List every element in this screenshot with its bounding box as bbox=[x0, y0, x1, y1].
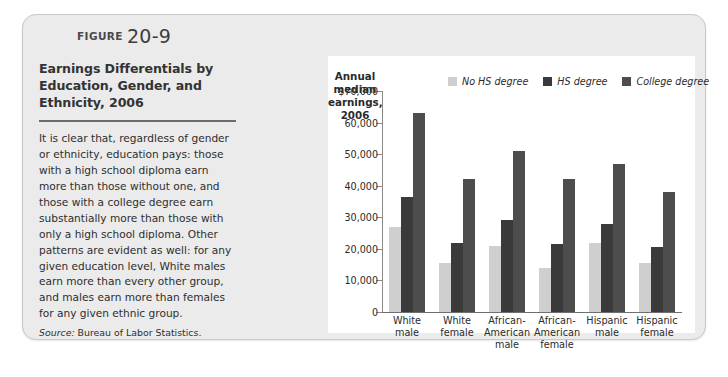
legend-item[interactable]: College degree bbox=[622, 76, 709, 87]
x-axis-label-line: American bbox=[532, 327, 582, 339]
bar bbox=[439, 263, 451, 312]
bar-group bbox=[638, 192, 676, 312]
bar bbox=[613, 164, 625, 312]
x-axis-label: Whitefemale bbox=[432, 315, 482, 339]
x-axis-label-line: White bbox=[382, 315, 432, 327]
bar bbox=[463, 179, 475, 312]
y-axis-tick-label: 10,000 bbox=[344, 275, 378, 286]
legend-swatch-icon bbox=[448, 77, 457, 86]
y-axis-tick-label: $70,000 bbox=[338, 86, 378, 97]
source-text: Bureau of Labor Statistics. bbox=[75, 327, 202, 338]
x-axis-label-line: male bbox=[382, 327, 432, 339]
figure-label-word: FIGURE bbox=[77, 30, 123, 42]
x-axis-labels: WhitemaleWhitefemaleAfrican-Americanmale… bbox=[382, 315, 682, 355]
bar bbox=[389, 227, 401, 312]
bar bbox=[451, 243, 463, 312]
source-word: Source: bbox=[39, 327, 75, 338]
figure-source-line: Source: Bureau of Labor Statistics. bbox=[39, 327, 244, 339]
x-axis-label-line: Hispanic bbox=[582, 315, 632, 327]
x-axis-label: Hispanicmale bbox=[582, 315, 632, 339]
figure-body-text: It is clear that, regardless of gender o… bbox=[39, 131, 239, 322]
y-axis-tick-label: 20,000 bbox=[344, 243, 378, 254]
bar bbox=[589, 243, 601, 312]
bar-group bbox=[488, 151, 526, 312]
legend-swatch-icon bbox=[543, 77, 552, 86]
bar bbox=[539, 268, 551, 312]
y-axis-tick-label: 30,000 bbox=[344, 212, 378, 223]
figure-number: 20-9 bbox=[127, 25, 171, 47]
y-axis-line bbox=[382, 91, 383, 313]
bar bbox=[563, 179, 575, 312]
figure-label: FIGURE20-9 bbox=[77, 23, 251, 46]
legend-label: HS degree bbox=[557, 76, 607, 87]
bar bbox=[501, 220, 513, 312]
bar-group bbox=[538, 179, 576, 312]
x-axis-label-line: White bbox=[432, 315, 482, 327]
x-axis-label: Hispanicfemale bbox=[632, 315, 682, 339]
y-axis-tick-label: 50,000 bbox=[344, 149, 378, 160]
x-axis-label-line: female bbox=[432, 327, 482, 339]
x-axis-label-line: female bbox=[632, 327, 682, 339]
y-axis-tick-label: 0 bbox=[372, 307, 378, 318]
bar bbox=[413, 113, 425, 312]
x-axis-label-line: female bbox=[532, 339, 582, 351]
bar bbox=[489, 246, 501, 312]
figure-title: Earnings Differentials by Education, Gen… bbox=[39, 60, 251, 111]
x-axis-label-line: Hispanic bbox=[632, 315, 682, 327]
legend-swatch-icon bbox=[622, 77, 631, 86]
bar bbox=[601, 224, 613, 312]
bar bbox=[551, 244, 563, 312]
x-axis-label-line: African- bbox=[482, 315, 532, 327]
bar bbox=[651, 247, 663, 312]
bar bbox=[663, 192, 675, 312]
bar bbox=[639, 263, 651, 312]
x-axis-label-line: African- bbox=[532, 315, 582, 327]
x-axis-label-line: male bbox=[582, 327, 632, 339]
y-axis-tick-label: 60,000 bbox=[344, 117, 378, 128]
chart-legend: No HS degreeHS degreeCollege degree bbox=[448, 76, 709, 87]
bar-group bbox=[388, 113, 426, 312]
figure-card: FIGURE20-9 Earnings Differentials by Edu… bbox=[22, 14, 706, 340]
bar-group bbox=[438, 179, 476, 312]
title-divider bbox=[39, 120, 236, 122]
bar-group bbox=[588, 164, 626, 312]
legend-label: College degree bbox=[636, 76, 709, 87]
x-axis-label: African-Americanmale bbox=[482, 315, 532, 350]
legend-item[interactable]: No HS degree bbox=[448, 76, 528, 87]
y-axis-title-line: earnings, bbox=[328, 96, 382, 109]
x-axis-label: Whitemale bbox=[382, 315, 432, 339]
legend-label: No HS degree bbox=[462, 76, 528, 87]
y-axis-tick-label: 40,000 bbox=[344, 180, 378, 191]
x-axis-line bbox=[382, 312, 682, 313]
figure-text-column: FIGURE20-9 Earnings Differentials by Edu… bbox=[39, 23, 251, 339]
x-axis-label: African-Americanfemale bbox=[532, 315, 582, 350]
plot-area: $70,00060,00050,00040,00030,00020,00010,… bbox=[382, 91, 682, 313]
legend-item[interactable]: HS degree bbox=[543, 76, 607, 87]
bar bbox=[401, 197, 413, 312]
y-axis-title-line: Annual bbox=[328, 70, 382, 83]
x-axis-label-line: American bbox=[482, 327, 532, 339]
x-axis-label-line: male bbox=[482, 339, 532, 351]
chart-panel: Annualmedianearnings,2006 No HS degreeHS… bbox=[328, 56, 695, 333]
bar bbox=[513, 151, 525, 312]
